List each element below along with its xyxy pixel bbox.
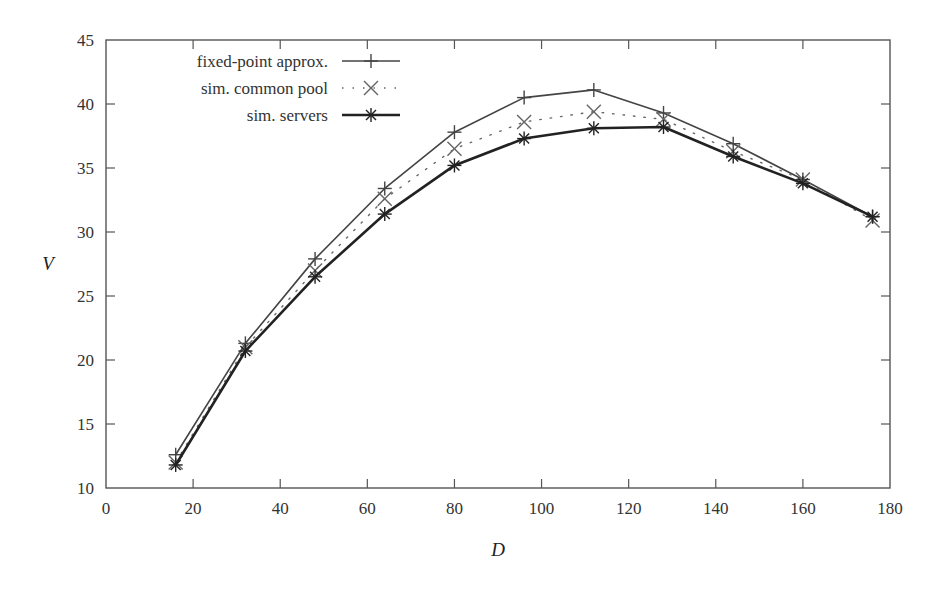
y-tick-label: 25 (77, 287, 94, 306)
x-tick-label: 140 (703, 499, 729, 518)
legend: fixed-point approx. sim. common pool sim… (197, 52, 400, 125)
plot-frame (106, 40, 890, 488)
series-2 (169, 120, 880, 472)
y-tick-label: 35 (77, 159, 94, 178)
x-tick-label: 80 (446, 499, 463, 518)
x-tick-label: 180 (877, 499, 903, 518)
plot-series (169, 83, 880, 472)
y-tick-label: 15 (77, 415, 94, 434)
line-chart: 020406080100120140160180 101520253035404… (0, 0, 945, 591)
x-axis-title: D (490, 539, 505, 560)
x-tick-label: 0 (102, 499, 111, 518)
x-axis: 020406080100120140160180 (102, 40, 903, 518)
x-tick-label: 60 (359, 499, 376, 518)
x-tick-label: 160 (790, 499, 816, 518)
legend-label-common-pool: sim. common pool (201, 79, 328, 98)
y-tick-label: 45 (77, 31, 94, 50)
x-tick-label: 120 (616, 499, 642, 518)
x-tick-label: 40 (272, 499, 289, 518)
series-1 (169, 105, 880, 470)
y-axis-title: V (42, 253, 56, 274)
y-tick-label: 20 (77, 351, 94, 370)
legend-label-fixed-point: fixed-point approx. (197, 52, 328, 71)
y-tick-label: 40 (77, 95, 94, 114)
y-tick-label: 30 (77, 223, 94, 242)
y-tick-label: 10 (77, 479, 94, 498)
x-tick-label: 20 (185, 499, 202, 518)
legend-label-servers: sim. servers (247, 106, 328, 125)
x-tick-label: 100 (529, 499, 555, 518)
